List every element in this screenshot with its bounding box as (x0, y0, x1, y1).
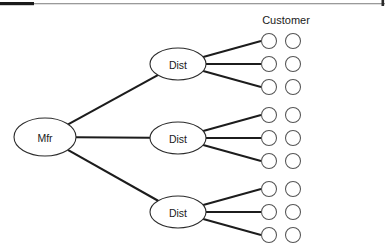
header-rule-light-segment (34, 3, 385, 4)
customer-node[interactable] (286, 57, 301, 72)
customer-node[interactable] (262, 34, 277, 49)
customer-node[interactable] (286, 182, 301, 197)
edge-mfr-to-dist (68, 150, 158, 201)
header-rule-dark-segment (0, 2, 34, 5)
distributor-label: Dist (169, 59, 187, 71)
customer-node[interactable] (262, 228, 277, 243)
distributor-node[interactable]: Dist (150, 122, 206, 154)
diagram-canvas: Customer Mfr DistDistDist (0, 0, 392, 248)
network-diagram: Customer Mfr DistDistDist (0, 0, 392, 248)
distributor-node-group: DistDistDist (150, 48, 206, 228)
manufacturer-node[interactable]: Mfr (14, 118, 76, 156)
customer-node[interactable] (262, 108, 277, 123)
customer-node[interactable] (286, 80, 301, 95)
distributor-label: Dist (169, 207, 187, 219)
distributor-node[interactable]: Dist (150, 196, 206, 228)
customer-node[interactable] (286, 131, 301, 146)
edge-mfr-to-dist (76, 137, 150, 138)
customer-group-heading: Customer (262, 14, 310, 26)
edge-dist-to-customer (203, 219, 261, 235)
edge-dist-to-customer (203, 189, 261, 205)
customer-node[interactable] (286, 228, 301, 243)
edge-dist-to-customer (203, 41, 261, 57)
customer-node[interactable] (286, 34, 301, 49)
edge-dist-to-customer (203, 145, 261, 161)
customer-node[interactable] (262, 154, 277, 169)
page-header-rule (0, 0, 385, 6)
distributor-label: Dist (169, 133, 187, 145)
customer-node[interactable] (262, 131, 277, 146)
customer-node[interactable] (262, 205, 277, 220)
customer-node[interactable] (262, 80, 277, 95)
customer-node[interactable] (286, 154, 301, 169)
header-corner-tick (382, 0, 385, 6)
distributor-node[interactable]: Dist (150, 48, 206, 80)
edges-mfr-to-dist (68, 75, 158, 201)
customer-node-group (262, 34, 301, 243)
edge-dist-to-customer (203, 115, 261, 131)
customer-node[interactable] (262, 57, 277, 72)
edges-dist-to-customer (203, 41, 261, 235)
customer-node[interactable] (262, 182, 277, 197)
edge-mfr-to-dist (68, 75, 158, 124)
customer-node[interactable] (286, 205, 301, 220)
edge-dist-to-customer (203, 71, 261, 87)
manufacturer-label: Mfr (37, 132, 53, 144)
customer-node[interactable] (286, 108, 301, 123)
